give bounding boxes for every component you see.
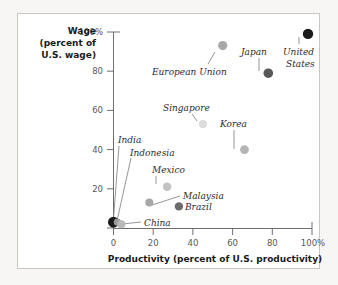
point-label-india: India (117, 135, 141, 145)
data-point-china[interactable] (117, 220, 125, 228)
point-label-china: China (144, 218, 171, 228)
data-point-korea[interactable] (240, 145, 249, 154)
x-axis-title: Productivity (percent of U.S. productivi… (108, 254, 322, 264)
x-tick-label-20: 20 (148, 238, 159, 248)
x-tick-label-80: 80 (267, 238, 278, 248)
scatter-chart: 100% 80 60 40 20 0 20 40 60 80 100% Wage… (0, 0, 338, 285)
leader-european-union (208, 52, 215, 64)
point-label-united-states-line1: United (283, 47, 314, 57)
point-label-singapore: Singapore (163, 103, 210, 113)
x-tick-label-0: 0 (111, 238, 116, 248)
y-tick-label-40: 40 (92, 145, 103, 155)
y-axis-title-line2: (percent of (40, 38, 97, 48)
y-tick-label-60: 60 (92, 105, 103, 115)
point-label-korea: Korea (219, 119, 247, 129)
data-point-singapore[interactable] (199, 120, 207, 128)
x-tick-label-60: 60 (227, 238, 238, 248)
data-point-united-states[interactable] (303, 29, 313, 39)
x-axis-tick-labels: 0 20 40 60 80 100% (111, 238, 325, 248)
y-axis-title: Wage (percent of U.S. wage) (40, 26, 97, 60)
point-label-brazil: Brazil (184, 202, 212, 212)
y-axis-title-line3: U.S. wage) (41, 50, 96, 60)
leader-singapore (192, 114, 197, 121)
y-axis-ticks (107, 32, 114, 228)
data-point-malaysia[interactable] (145, 199, 153, 207)
point-label-european-union: European Union (151, 67, 227, 77)
data-point-mexico[interactable] (163, 183, 171, 191)
x-tick-label-40: 40 (187, 238, 198, 248)
y-tick-label-80: 80 (92, 66, 103, 76)
figure-canvas: 100% 80 60 40 20 0 20 40 60 80 100% Wage… (0, 0, 338, 285)
data-point-european-union[interactable] (218, 41, 227, 50)
y-tick-label-20: 20 (92, 184, 103, 194)
y-axis-title-line1: Wage (68, 26, 96, 36)
point-label-mexico: Mexico (151, 165, 186, 175)
point-label-indonesia: Indonesia (129, 148, 175, 158)
x-axis-ticks (114, 229, 313, 236)
data-point-japan[interactable] (264, 68, 274, 78)
point-label-united-states-line2: States (286, 59, 315, 69)
data-point-brazil[interactable] (175, 202, 183, 210)
leader-indonesia (117, 158, 131, 221)
point-label-malaysia: Malaysia (182, 191, 224, 201)
leader-india (114, 146, 120, 219)
x-tick-label-100: 100% (301, 238, 325, 248)
point-label-japan: Japan (239, 47, 267, 57)
